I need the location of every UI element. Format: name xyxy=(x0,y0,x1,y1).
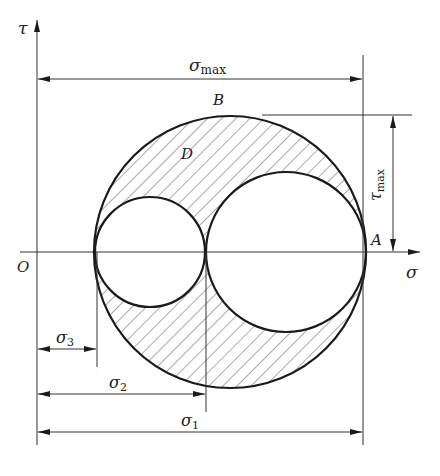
sigma1-label: σ1 xyxy=(181,411,199,432)
point-a-label: A xyxy=(369,231,382,249)
hatched-stress-region xyxy=(90,110,372,392)
origin-label: O xyxy=(17,258,29,276)
sigma-axis-label: σ xyxy=(406,262,418,282)
sigma-max-label: σmax xyxy=(189,55,226,77)
point-b-label: B xyxy=(212,91,224,109)
sigma3-label: σ3 xyxy=(56,328,74,349)
svg-text:σ1: σ1 xyxy=(181,411,199,432)
mohr-circle-diagram: τ σ O A B D σmax τmax σ3 σ2 σ1 xyxy=(0,0,440,476)
svg-text:σ3: σ3 xyxy=(56,328,74,349)
tau-axis-label: τ xyxy=(18,18,28,38)
point-d-label: D xyxy=(180,145,193,163)
svg-text:σmax: σmax xyxy=(189,55,226,77)
